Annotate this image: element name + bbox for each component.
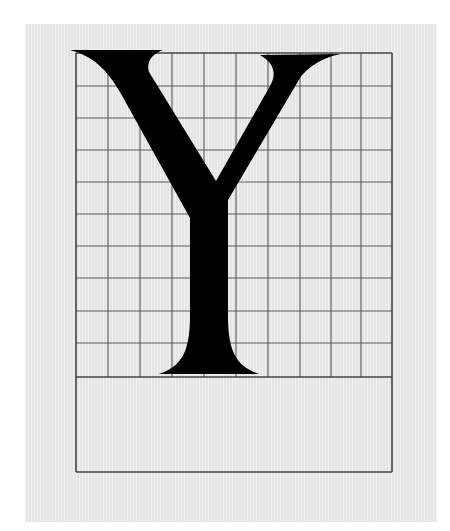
construction-grid — [76, 53, 392, 377]
frame — [76, 53, 392, 472]
letter-construction-figure — [0, 0, 450, 531]
